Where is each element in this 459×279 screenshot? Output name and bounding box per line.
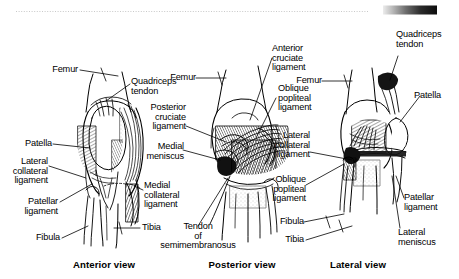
leader-lateral-fibula [304,214,344,222]
leader-lateral-tibia-tick [339,220,343,232]
lateral-knee-drawing [340,68,408,214]
leader-lateral-tibia [306,226,352,240]
anatomy-figure: Femur Quadriceps tendon Patella Lateral … [0,0,459,279]
leader-anterior-lateral-collateral [49,166,86,178]
leader-lateral-patellar-ligament [396,176,404,198]
leader-lateral-fibula-tick [326,216,330,228]
posterior-knee-drawing [210,66,288,242]
leader-lateral-patella [400,96,420,122]
leader-anterior-femur-tick [101,68,106,81]
knee-illustrations [0,0,459,279]
leader-posterior-femur-tick [218,72,222,85]
anterior-knee-drawing [78,72,143,248]
leader-lateral-femur-tick [344,75,348,88]
leader-anterior-femur [80,70,118,76]
leader-lateral-opl [306,164,344,185]
leader-posterior-acl [250,58,272,120]
